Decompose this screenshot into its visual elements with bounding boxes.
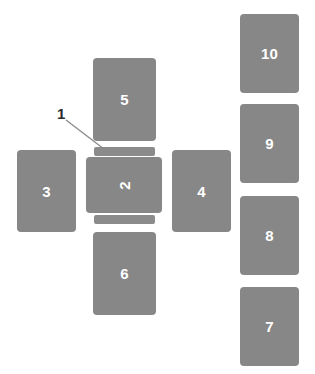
- bar-top[interactable]: [94, 147, 155, 156]
- part-9[interactable]: 9: [240, 104, 299, 183]
- part-4[interactable]: 4: [172, 150, 231, 232]
- part-10[interactable]: 10: [240, 14, 299, 93]
- part-6[interactable]: 6: [93, 232, 156, 315]
- callout-label-1: 1: [57, 106, 65, 121]
- part-8[interactable]: 8: [240, 196, 299, 275]
- part-label-10: 10: [261, 46, 278, 61]
- part-3[interactable]: 3: [17, 150, 76, 232]
- part-label-9: 9: [265, 136, 274, 151]
- part-5[interactable]: 5: [93, 58, 156, 141]
- part-label-3: 3: [42, 184, 51, 199]
- part-label-4: 4: [197, 184, 206, 199]
- part-7[interactable]: 7: [240, 287, 299, 366]
- part-label-7: 7: [265, 319, 274, 334]
- part-label-8: 8: [265, 228, 274, 243]
- figure-canvas: 1 5 3 2 4 6 10 9 8 7: [0, 0, 315, 374]
- part-2[interactable]: 2: [86, 157, 162, 213]
- bar-bottom[interactable]: [94, 215, 155, 224]
- part-label-2: 2: [116, 181, 131, 190]
- part-label-6: 6: [120, 266, 129, 281]
- part-label-5: 5: [120, 92, 129, 107]
